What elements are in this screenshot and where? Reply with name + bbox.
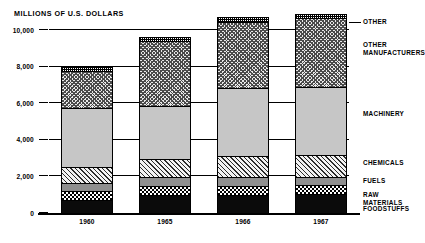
segment-machinery <box>140 106 190 159</box>
segment-fuels <box>140 177 190 186</box>
segment-chemicals <box>140 159 190 177</box>
ytick-2000 <box>39 175 48 176</box>
segment-chemicals <box>296 155 346 178</box>
callout-other: OTHER <box>363 18 387 26</box>
bar-1960 <box>61 67 113 213</box>
segment-machinery <box>62 108 112 167</box>
ytick-label-10000: 10,000 <box>0 27 34 34</box>
leader-other <box>349 22 361 23</box>
segment-other-manufacturers <box>218 22 268 89</box>
plot-area: 10,000 8,000 6,000 4,000 2,000 0 1960 19… <box>49 30 349 213</box>
x-axis-line <box>38 213 360 215</box>
segment-other-manufacturers <box>62 71 112 108</box>
xtick-label-1965: 1965 <box>135 218 195 225</box>
segment-machinery <box>218 88 268 156</box>
segment-raw-materials <box>218 186 268 195</box>
ytick-4000 <box>39 139 48 140</box>
segment-machinery <box>296 87 346 155</box>
xtick-label-1967: 1967 <box>291 218 351 225</box>
bar-1967 <box>295 14 347 213</box>
segment-chemicals <box>62 167 112 183</box>
segment-raw-materials <box>140 186 190 194</box>
xtick-label-1960: 1960 <box>57 218 117 225</box>
bar-1965 <box>139 37 191 213</box>
ytick-label-8000: 8,000 <box>0 63 34 70</box>
callout-raw-materials: RAW MATERIALS <box>363 191 403 206</box>
ytick-label-2000: 2,000 <box>0 173 34 180</box>
segment-fuels <box>218 177 268 185</box>
callout-other-manufacturers: OTHER MANUFACTURERS <box>363 41 425 56</box>
xtick-label-1966: 1966 <box>213 218 273 225</box>
bar-1966 <box>217 17 269 213</box>
callout-machinery: MACHINERY <box>363 110 404 118</box>
segment-foodstuffs <box>62 200 112 213</box>
ytick-6000 <box>39 102 48 103</box>
ytick-label-0: 0 <box>0 210 34 217</box>
segment-fuels <box>296 177 346 185</box>
segment-fuels <box>62 183 112 191</box>
segment-raw-materials <box>62 191 112 199</box>
segment-other-manufacturers <box>296 18 346 87</box>
chart-title: MILLIONS OF U.S. DOLLARS <box>14 9 124 18</box>
segment-raw-materials <box>296 185 346 194</box>
callout-fuels: FUELS <box>363 177 385 185</box>
segment-chemicals <box>218 156 268 178</box>
ytick-10000 <box>39 29 48 30</box>
ytick-8000 <box>39 66 48 67</box>
callout-chemicals: CHEMICALS <box>363 159 404 167</box>
segment-foodstuffs <box>218 195 268 213</box>
segment-other-manufacturers <box>140 41 190 106</box>
ytick-label-6000: 6,000 <box>0 100 34 107</box>
segment-foodstuffs <box>140 195 190 213</box>
segment-foodstuffs <box>296 194 346 213</box>
ytick-label-4000: 4,000 <box>0 136 34 143</box>
callout-foodstuffs: FOODSTUFFS <box>363 205 409 213</box>
